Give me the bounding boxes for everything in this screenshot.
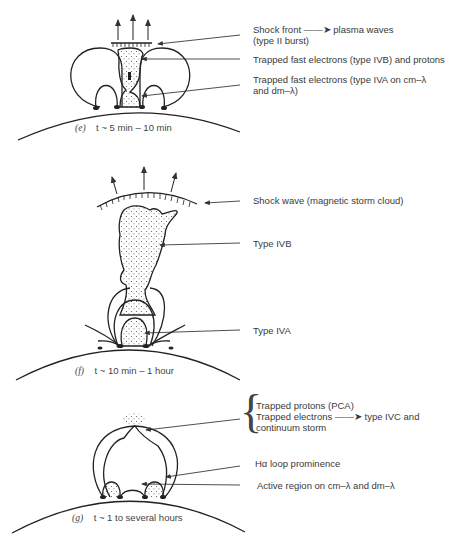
label-line: Hα loop prominence	[255, 458, 340, 469]
label-shock-front: Shock front ——➤ plasma waves (type II bu…	[253, 24, 394, 46]
label-type-iva: Type IVA	[253, 325, 291, 336]
type-ivb-cloud	[119, 206, 177, 315]
caption-time: t ~ 5 min – 10 min	[96, 122, 172, 133]
label-line: Trapped fast electrons (type IVB) and pr…	[253, 54, 445, 65]
label-line: Type IVA	[253, 325, 291, 336]
label-trapped-fast-electrons-iva: Trapped fast electrons (type IVA on cm–λ…	[253, 74, 426, 96]
trapped-protons-cloud	[123, 413, 145, 425]
caption-letter: (e)	[75, 123, 86, 133]
label-line: Trapped protons (PCA)	[256, 400, 419, 411]
label-line: Trapped electrons ——➤ type IVC and	[256, 411, 419, 422]
caption-g: (g) t ~ 1 to several hours	[72, 512, 183, 523]
large-loop-right	[140, 48, 190, 107]
caption-letter: (f)	[75, 366, 84, 376]
label-type-ivb: Type IVB	[253, 238, 292, 249]
label-line: Type IVB	[253, 238, 292, 249]
small-loop-right-e	[143, 86, 165, 109]
caption-f: (f) t ~ 10 min – 1 hour	[75, 365, 174, 376]
caption-e: (e) t ~ 5 min – 10 min	[75, 122, 172, 133]
label-trapped-fast-electrons-ivb: Trapped fast electrons (type IVB) and pr…	[253, 54, 445, 65]
label-line: continuum storm	[256, 422, 419, 433]
label-h-alpha: Hα loop prominence	[255, 458, 340, 469]
label-line: Trapped fast electrons (type IVA on cm–λ	[253, 74, 426, 85]
label-line: and dm–λ)	[253, 85, 426, 96]
label-active-region: Active region on cm–λ and dm–λ	[257, 480, 395, 491]
h-alpha-loop-left	[103, 482, 120, 497]
small-loop-left-e	[96, 86, 118, 109]
central-loop-g	[120, 490, 145, 497]
label-trapped-protons: Trapped protons (PCA) Trapped electrons …	[256, 400, 419, 433]
label-line: Active region on cm–λ and dm–λ	[257, 480, 395, 491]
caption-time: t ~ 1 to several hours	[94, 512, 183, 523]
label-line: Shock wave (magnetic storm cloud)	[253, 195, 403, 206]
label-line: (type II burst)	[253, 35, 394, 46]
caption-letter: (g)	[72, 513, 83, 523]
type-iva-loop	[121, 318, 147, 346]
caption-time: t ~ 10 min – 1 hour	[95, 365, 174, 376]
label-shock-wave: Shock wave (magnetic storm cloud)	[253, 195, 403, 206]
label-line: Shock front ——➤ plasma waves	[253, 24, 394, 35]
panel-f	[16, 167, 240, 380]
